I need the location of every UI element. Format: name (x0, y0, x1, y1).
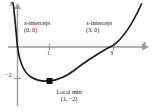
annotation-left-intercept-title: x-intercept (24, 19, 50, 26)
annotation-local-min-coord: (1, −2) (37, 95, 101, 102)
y-axis-label: y (10, 0, 13, 7)
annotation-left-intercept-coord: (0, 0) (24, 26, 37, 33)
annotation-right-intercept-coord: (3, 0) (86, 26, 99, 33)
x-axis-label: x (143, 40, 146, 47)
annotation-local-min: Local min (1, −2) (37, 88, 101, 102)
y-tick-label-minus-2: −2 (5, 72, 11, 79)
function-curve (13, 3, 142, 82)
annotation-right-intercept: x-intercept (3, 0) (86, 19, 112, 33)
annotation-local-min-title: Local min (56, 88, 81, 95)
annotation-right-intercept-title: x-intercept (86, 19, 112, 26)
annotation-left-intercept: x-intercept (0, 0) (24, 19, 50, 33)
x-tick-label-1: 1 (47, 50, 50, 57)
y-axis-arrowhead (14, 3, 21, 9)
graph-figure: x-intercept (0, 0) x-intercept (3, 0) Lo… (0, 0, 153, 112)
local-min-marker (47, 78, 53, 84)
x-tick-label-3: 3 (110, 50, 113, 57)
